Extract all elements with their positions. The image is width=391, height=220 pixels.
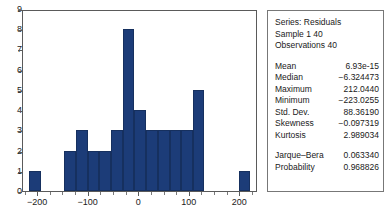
statistic-label: Skewness <box>275 118 314 130</box>
statistic-label: Kurtosis <box>275 130 306 142</box>
statistic-row: Minimum−223.0255 <box>275 95 379 107</box>
statistic-value: −223.0255 <box>339 95 379 107</box>
statistic-value: −0.097319 <box>339 118 379 130</box>
statistic-value: 212.0440 <box>344 84 379 96</box>
statistic-row: Skewness−0.097319 <box>275 118 379 130</box>
x-axis-minor-tick-mark <box>252 192 253 195</box>
x-axis-minor-tick-mark <box>25 192 26 195</box>
x-axis-tick-mark <box>138 192 139 196</box>
sample-label: Sample 1 40 <box>275 29 383 41</box>
x-axis-minor-tick-mark <box>50 192 51 195</box>
x-axis-minor-tick-mark <box>113 192 114 195</box>
stats-spacer-2 <box>275 141 383 150</box>
statistic-row: Mean6.93e-15 <box>275 61 379 73</box>
descriptive-statistics-list: Mean6.93e-15Median−6.324473Maximum212.04… <box>275 61 383 142</box>
statistic-value: 2.989034 <box>344 130 379 142</box>
histogram-figure: 0123456789 −200−1000100200 Series: Resid… <box>0 0 391 220</box>
statistic-label: Mean <box>275 61 296 73</box>
statistic-row: Median−6.324473 <box>275 72 379 84</box>
x-axis-minor-tick-mark <box>164 192 165 195</box>
statistic-value: 0.968826 <box>344 162 379 174</box>
statistic-row: Kurtosis2.989034 <box>275 130 379 142</box>
observations-label: Observations 40 <box>275 40 383 52</box>
chart-area: 0123456789 −200−1000100200 <box>0 0 258 220</box>
x-axis-tick-label: −200 <box>17 197 57 207</box>
normality-test-row: Probability0.968826 <box>275 162 379 174</box>
statistic-label: Std. Dev. <box>275 107 309 119</box>
normality-test-row: Jarque–Bera0.063340 <box>275 150 379 162</box>
x-axis-tick-mark <box>37 192 38 196</box>
statistic-label: Median <box>275 72 303 84</box>
x-axis-minor-tick-mark <box>227 192 228 195</box>
x-axis-tick-label: 200 <box>219 197 259 207</box>
x-axis-tick-mark <box>189 192 190 196</box>
x-axis-minor-tick-mark <box>176 192 177 195</box>
statistic-value: 88.36190 <box>344 107 379 119</box>
x-axis: −200−1000100200 <box>0 0 258 220</box>
x-axis-tick-label: 0 <box>118 197 158 207</box>
x-axis-tick-label: 100 <box>169 197 209 207</box>
x-axis-minor-tick-mark <box>75 192 76 195</box>
statistic-label: Probability <box>275 162 315 174</box>
statistic-value: 0.063340 <box>344 150 379 162</box>
x-axis-minor-tick-mark <box>126 192 127 195</box>
x-axis-tick-label: −100 <box>68 197 108 207</box>
x-axis-tick-mark <box>88 192 89 196</box>
stats-spacer <box>275 52 383 61</box>
statistic-row: Maximum212.0440 <box>275 84 379 96</box>
statistic-value: 6.93e-15 <box>345 61 379 73</box>
x-axis-minor-tick-mark <box>201 192 202 195</box>
statistic-label: Maximum <box>275 84 312 96</box>
statistic-row: Std. Dev.88.36190 <box>275 107 379 119</box>
normality-test-list: Jarque–Bera0.063340Probability0.968826 <box>275 150 383 173</box>
x-axis-minor-tick-mark <box>100 192 101 195</box>
x-axis-minor-tick-mark <box>214 192 215 195</box>
x-axis-minor-tick-mark <box>151 192 152 195</box>
statistics-box: Series: Residuals Sample 1 40 Observatio… <box>267 10 384 192</box>
x-axis-minor-tick-mark <box>62 192 63 195</box>
statistic-label: Minimum <box>275 95 309 107</box>
series-label: Series: Residuals <box>275 17 383 29</box>
statistic-label: Jarque–Bera <box>275 150 324 162</box>
x-axis-tick-mark <box>239 192 240 196</box>
statistic-value: −6.324473 <box>339 72 379 84</box>
